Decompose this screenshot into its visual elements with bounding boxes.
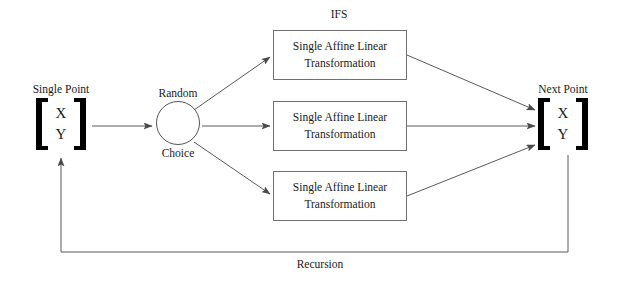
single-point-caption: Single Point (26, 83, 96, 96)
random-choice-node: Random Choice (138, 86, 218, 160)
transform-box-3: Single Affine Linear Transformation (273, 171, 407, 221)
transform-box-2: Single Affine Linear Transformation (273, 101, 407, 151)
right-bracket-icon (575, 98, 588, 150)
transform-box-1-line1: Single Affine Linear (293, 38, 387, 55)
arrow-transform-3-to-next-point (407, 145, 535, 196)
transform-box-1-line2: Transformation (304, 55, 375, 72)
transform-box-3-line1: Single Affine Linear (293, 179, 387, 196)
next-point-values: X Y (551, 98, 575, 150)
transform-box-2-line2: Transformation (304, 126, 375, 143)
next-point-matrix: X Y (538, 98, 588, 150)
transform-box-2-line1: Single Affine Linear (293, 109, 387, 126)
single-point-values: X Y (49, 98, 73, 150)
arrow-transform-1-to-next-point (407, 55, 535, 110)
left-bracket-icon (538, 98, 551, 150)
ifs-group-title: IFS (304, 8, 374, 21)
transform-box-3-line2: Transformation (304, 196, 375, 213)
random-choice-circle (156, 101, 200, 145)
single-point-node: Single Point X Y (26, 83, 96, 154)
ifs-diagram-canvas: IFS Single Point X Y Random Choice Singl… (0, 0, 622, 284)
next-point-x: X (558, 103, 569, 124)
random-choice-caption-above: Random (138, 86, 218, 100)
random-choice-caption-below: Choice (138, 146, 218, 160)
recursion-label: Recursion (275, 258, 365, 271)
left-bracket-icon (36, 98, 49, 150)
single-point-y: Y (56, 124, 67, 145)
next-point-caption: Next Point (528, 83, 598, 96)
single-point-x: X (56, 103, 67, 124)
right-bracket-icon (73, 98, 86, 150)
single-point-matrix: X Y (36, 98, 86, 150)
transform-box-1: Single Affine Linear Transformation (273, 30, 407, 80)
next-point-node: Next Point X Y (528, 83, 598, 154)
next-point-y: Y (558, 124, 569, 145)
